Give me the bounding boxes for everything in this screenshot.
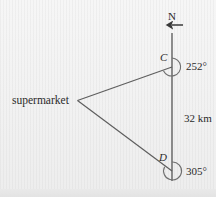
bearings-figure: N C 252° 32 km D 305° supermarket [0,0,216,197]
supermarket-label: supermarket [12,95,69,107]
point-d-label: D [159,152,167,163]
north-label: N [168,11,176,22]
leg-supermarket-to-d [78,101,173,172]
bearing-c-label: 252° [186,61,207,72]
bearing-d-label: 305° [186,166,207,177]
point-c-label: C [160,52,167,63]
distance-label: 32 km [184,113,212,124]
leg-supermarket-to-c [78,67,173,101]
